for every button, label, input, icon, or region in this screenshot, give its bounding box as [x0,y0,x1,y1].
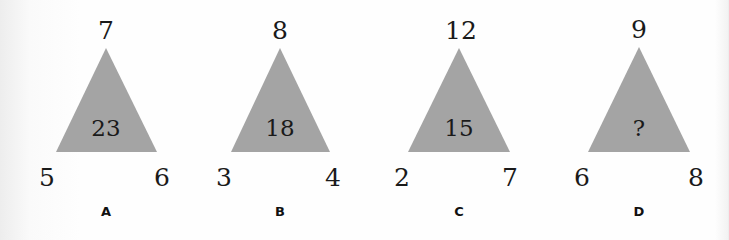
top-number: 7 [98,18,114,43]
puzzle-label: A [101,204,111,219]
top-number: 9 [631,17,647,42]
left-number: 5 [39,165,55,190]
puzzle-label: C [454,204,464,219]
left-number: 6 [574,165,590,190]
triangle-puzzle-a: 7 23 5 6 A [16,0,196,231]
right-number: 6 [154,165,170,190]
top-number: 8 [272,18,288,43]
unknown-center-value: ? [633,117,645,140]
top-number: 12 [445,18,477,43]
center-number: 18 [265,117,294,140]
left-number: 2 [394,165,410,190]
right-number: 7 [502,165,518,190]
right-number: 8 [688,165,704,190]
center-number: 15 [444,117,473,140]
triangle-puzzle-b: 8 18 3 4 B [190,0,370,231]
puzzle-label: B [275,204,285,219]
center-number: 23 [91,117,120,140]
right-number: 4 [325,165,341,190]
left-number: 3 [216,165,232,190]
triangle-puzzle-d: 9 ? 6 8 D [549,0,729,231]
puzzle-label: D [634,204,645,219]
triangle-puzzle-c: 12 15 2 7 C [369,0,549,231]
